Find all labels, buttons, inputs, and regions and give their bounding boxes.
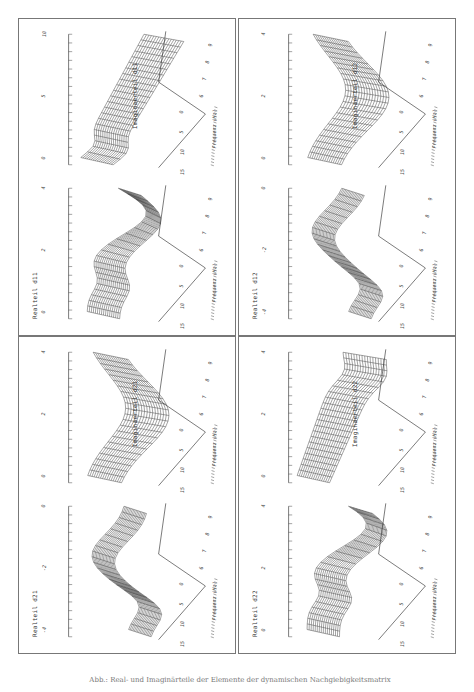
frequency-tick-label: 0 xyxy=(398,264,404,267)
depth-tick-label: 6 xyxy=(418,412,424,415)
frequency-tick-label: 15 xyxy=(179,487,185,493)
depth-tick-label: 8 xyxy=(424,60,430,63)
panel-d21: Imaginaerteil d21Realteil d21420Frequenz… xyxy=(18,336,236,654)
frequency-tick-label: 10 xyxy=(399,303,405,309)
frequency-axis-label: Frequenz (Hz) xyxy=(431,263,437,302)
depth-tick-label: 6 xyxy=(418,566,424,569)
depth-tick-label: 7 xyxy=(201,549,207,552)
depth-tick-label: 9 xyxy=(207,361,213,364)
z-tick-label: 0 xyxy=(40,474,46,477)
depth-tick-label: 9 xyxy=(427,361,433,364)
frequency-tick-label: 15 xyxy=(179,641,185,647)
imag-title: Imaginaerteil d12 xyxy=(351,62,358,129)
z-tick-label: 4 xyxy=(40,186,46,189)
frequency-axis-label: Frequenz (Hz) xyxy=(431,427,437,466)
z-tick-label: 0 xyxy=(40,504,46,507)
frequency-tick-label: 0 xyxy=(178,110,184,113)
panel-d22: Imaginaerteil d22Realteil d22420Frequenz… xyxy=(238,336,456,654)
depth-tick-label: 8 xyxy=(424,378,430,381)
frequency-tick-label: 0 xyxy=(398,110,404,113)
frequency-tick-label: 5 xyxy=(398,284,404,287)
panel-d12: Imaginaerteil d12Realteil d12420Frequenz… xyxy=(238,18,456,336)
depth-tick-label: 7 xyxy=(201,231,207,234)
frequency-tick-label: 10 xyxy=(399,149,405,155)
frequency-tick-label: 15 xyxy=(399,487,405,493)
frequency-tick-label: 5 xyxy=(178,284,184,287)
depth-tick-label: 8 xyxy=(424,214,430,217)
frequency-tick-label: 15 xyxy=(399,323,405,329)
frequency-tick-label: 10 xyxy=(179,467,185,473)
depth-tick-label: 7 xyxy=(421,395,427,398)
depth-tick-label: 9 xyxy=(427,43,433,46)
figure-frame: Imaginaerteil d11Realteil d111050Frequen… xyxy=(18,18,456,666)
frequency-tick-label: 10 xyxy=(399,467,405,473)
z-tick-label: 2 xyxy=(40,248,46,251)
depth-tick-label: 7 xyxy=(201,77,207,80)
frequency-tick-label: 0 xyxy=(398,582,404,585)
imag-title: Imaginaerteil d11 xyxy=(131,62,138,129)
z-tick-label: 10 xyxy=(41,31,47,37)
frequency-tick-label: 0 xyxy=(178,428,184,431)
depth-tick-label: 9 xyxy=(427,515,433,518)
frequency-axis-label: Frequenz (Hz) xyxy=(431,109,437,148)
frequency-axis-label: Frequenz (Hz) xyxy=(431,581,437,620)
frequency-axis-label: Frequenz (Hz) xyxy=(211,427,217,466)
figure-caption: Abb.: Real- und Imaginärteile der Elemen… xyxy=(60,676,420,684)
real-title: Realteil d12 xyxy=(251,272,258,319)
frequency-tick-label: 5 xyxy=(398,602,404,605)
frequency-axis-label: Frequenz (Hz) xyxy=(211,581,217,620)
z-tick-label: 0 xyxy=(40,156,46,159)
frequency-tick-label: 5 xyxy=(178,130,184,133)
real-title: Realteil d22 xyxy=(251,590,258,637)
z-tick-label: 0 xyxy=(40,310,46,313)
depth-tick-label: 8 xyxy=(204,378,210,381)
depth-tick-label: 7 xyxy=(421,77,427,80)
imag-title: Imaginaerteil d21 xyxy=(131,380,138,447)
frequency-tick-label: 15 xyxy=(179,323,185,329)
real-title: Realteil d11 xyxy=(31,272,38,319)
frequency-tick-label: 5 xyxy=(178,448,184,451)
z-tick-label: 0 xyxy=(260,474,266,477)
imag-title: Imaginaerteil d22 xyxy=(351,380,358,447)
frequency-tick-label: 10 xyxy=(179,303,185,309)
depth-tick-label: 6 xyxy=(418,94,424,97)
depth-tick-label: 8 xyxy=(204,60,210,63)
depth-tick-label: 9 xyxy=(207,515,213,518)
frequency-tick-label: 15 xyxy=(399,641,405,647)
z-tick-label: 4 xyxy=(260,350,266,353)
frequency-tick-label: 0 xyxy=(178,582,184,585)
z-tick-label: 0 xyxy=(260,628,266,631)
frequency-axis-label: Frequenz (Hz) xyxy=(211,109,217,148)
z-tick-label: 5 xyxy=(40,94,46,97)
z-tick-label: 4 xyxy=(260,504,266,507)
z-tick-label: 4 xyxy=(40,350,46,353)
frequency-tick-label: 0 xyxy=(178,264,184,267)
depth-tick-label: 8 xyxy=(424,532,430,535)
z-tick-label: 2 xyxy=(260,94,266,97)
frequency-tick-label: 5 xyxy=(398,130,404,133)
z-tick-label: -2 xyxy=(41,565,47,571)
frequency-axis-label: Frequenz (Hz) xyxy=(211,263,217,302)
frequency-tick-label: 10 xyxy=(179,621,185,627)
z-tick-label: -4 xyxy=(261,309,267,315)
z-tick-label: 0 xyxy=(260,186,266,189)
depth-tick-label: 7 xyxy=(421,231,427,234)
panel-d11: Imaginaerteil d11Realteil d111050Frequen… xyxy=(18,18,236,336)
depth-tick-label: 6 xyxy=(198,412,204,415)
z-tick-label: 2 xyxy=(260,566,266,569)
depth-tick-label: 8 xyxy=(204,214,210,217)
z-tick-label: -4 xyxy=(41,627,47,633)
frequency-tick-label: 10 xyxy=(399,621,405,627)
frequency-tick-label: 0 xyxy=(398,428,404,431)
depth-tick-label: 9 xyxy=(207,197,213,200)
z-tick-label: 0 xyxy=(260,156,266,159)
depth-tick-label: 6 xyxy=(198,248,204,251)
z-tick-label: 2 xyxy=(40,412,46,415)
depth-tick-label: 6 xyxy=(418,248,424,251)
depth-tick-label: 9 xyxy=(427,197,433,200)
depth-tick-label: 6 xyxy=(198,94,204,97)
z-tick-label: 4 xyxy=(260,32,266,35)
depth-tick-label: 9 xyxy=(207,43,213,46)
frequency-tick-label: 5 xyxy=(178,602,184,605)
frequency-tick-label: 10 xyxy=(179,149,185,155)
